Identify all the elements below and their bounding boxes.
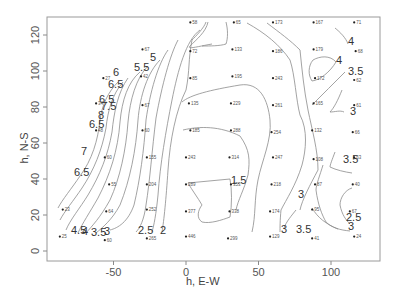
point-marker [228, 210, 230, 212]
x-tick-label: 50 [252, 266, 264, 278]
point-label: 85 [192, 76, 198, 81]
data-point: 67 [141, 47, 150, 52]
data-point: 186 [272, 49, 283, 54]
point-label: 87 [317, 182, 323, 187]
point-label: 173 [275, 20, 283, 25]
point-marker [314, 77, 316, 79]
point-label: 23 [65, 207, 71, 212]
point-marker [352, 131, 354, 133]
point-marker [141, 129, 143, 131]
point-label: 265 [149, 236, 157, 241]
data-point: 27 [102, 76, 111, 81]
data-point: 174 [269, 209, 280, 214]
point-marker [102, 77, 104, 79]
point-marker [233, 21, 235, 23]
point-label: 195 [234, 74, 242, 79]
point-label: 63 [356, 155, 362, 160]
point-label: 60 [107, 238, 113, 243]
point-label: 61 [356, 103, 362, 108]
point-label: 185 [192, 128, 200, 133]
data-point: 173 [272, 20, 283, 25]
y-tick-label: 120 [29, 26, 41, 44]
point-marker [189, 77, 191, 79]
data-point: 195 [231, 74, 242, 79]
point-marker [270, 183, 272, 185]
data-point: 108 [313, 157, 324, 162]
point-marker [185, 236, 187, 238]
point-marker [272, 156, 274, 158]
point-marker [228, 156, 230, 158]
point-marker [108, 183, 110, 185]
data-point: 135 [188, 101, 199, 106]
point-marker [353, 21, 355, 23]
data-point: 338 [228, 209, 239, 214]
point-label: 68 [358, 49, 364, 54]
y-tick-label: 60 [29, 137, 41, 149]
point-marker [311, 237, 313, 239]
data-point: 229 [230, 101, 241, 106]
point-label: 60 [145, 128, 151, 133]
point-marker [352, 183, 354, 185]
point-marker [227, 237, 229, 239]
point-marker [353, 104, 355, 106]
data-point: 25 [59, 234, 68, 239]
point-label: 254 [274, 130, 282, 135]
point-label: 40 [355, 182, 361, 187]
contour-label: 7 [81, 145, 87, 157]
point-label: 67 [352, 209, 358, 214]
point-label: 34 [98, 101, 104, 106]
point-marker [95, 102, 97, 104]
point-label: 58 [192, 20, 198, 25]
contour-label: 6 [113, 66, 119, 78]
point-marker [146, 209, 148, 211]
point-marker [272, 104, 274, 106]
x-axis: -50050100 [106, 261, 341, 278]
point-marker [146, 183, 148, 185]
point-label: 338 [232, 209, 240, 214]
data-point: 155 [146, 155, 157, 160]
point-label: 95 [314, 207, 320, 212]
point-label: 42 [143, 74, 149, 79]
data-point: 314 [228, 155, 239, 160]
point-label: 62 [356, 78, 362, 83]
point-label: 261 [275, 103, 283, 108]
point-marker [104, 156, 106, 158]
contour-label: 3 [104, 225, 110, 237]
point-marker [349, 210, 351, 212]
data-point: 299 [227, 236, 238, 241]
point-label: 204 [149, 182, 157, 187]
point-marker [189, 21, 191, 23]
point-label: 229 [233, 101, 241, 106]
data-point: 62 [353, 78, 362, 83]
data-point: 261 [272, 103, 283, 108]
point-label: 64 [108, 209, 114, 214]
data-point: 165 [313, 101, 324, 106]
point-label: 72 [192, 49, 198, 54]
point-marker [185, 183, 187, 185]
point-label: 108 [316, 157, 324, 162]
point-label: 27 [105, 76, 111, 81]
point-label: 129 [272, 234, 280, 239]
point-marker [269, 210, 271, 212]
data-point: 243 [272, 76, 283, 81]
point-marker [313, 48, 315, 50]
data-point: 60 [141, 128, 150, 133]
point-label: 243 [275, 76, 283, 81]
point-marker [189, 129, 191, 131]
data-point: 377 [185, 209, 196, 214]
point-marker [314, 183, 316, 185]
data-point: 252 [146, 207, 157, 212]
contour-label: 5 [150, 51, 156, 63]
data-point: 66 [352, 130, 361, 135]
point-marker [355, 50, 357, 52]
point-label: 155 [149, 155, 157, 160]
contour-label: 2 [160, 224, 166, 236]
point-label: 48 [98, 128, 104, 133]
point-marker [230, 129, 232, 131]
x-axis-label: h, E-W [186, 275, 220, 287]
point-label: 172 [317, 76, 325, 81]
point-label: 218 [274, 182, 282, 187]
data-point: 247 [272, 155, 283, 160]
data-point: 254 [270, 130, 281, 135]
data-point: 65 [233, 20, 242, 25]
